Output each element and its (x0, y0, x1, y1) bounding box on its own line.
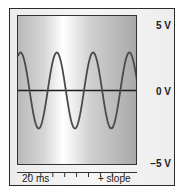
voltage-label-zero: 0 V (141, 86, 171, 97)
trigger-slope-label: + slope (98, 173, 131, 184)
oscilloscope-screen (17, 15, 137, 165)
time-axis-ticks (17, 164, 137, 170)
voltage-label-bottom: −5 V (141, 158, 171, 169)
waveform-plot (18, 16, 137, 165)
time-per-division-label: 20 ms (22, 173, 49, 184)
voltage-label-top: 5 V (141, 20, 171, 31)
